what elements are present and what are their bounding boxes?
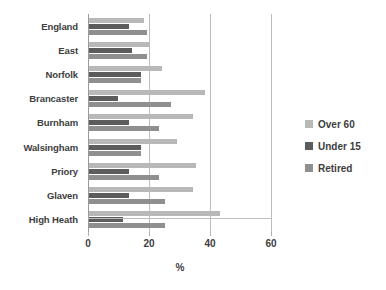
bar-groups	[89, 14, 272, 232]
y-axis-label: Brancaster	[0, 87, 84, 111]
bar-group	[89, 184, 272, 208]
x-axis-line	[88, 218, 272, 219]
x-axis-tick-label: 40	[204, 238, 215, 249]
x-axis-title: %	[88, 262, 272, 273]
bar-row	[89, 54, 272, 59]
bar[interactable]	[89, 120, 129, 125]
bar-row	[89, 139, 272, 144]
legend: Over 60Under 15Retired	[305, 113, 383, 179]
bar-row	[89, 169, 272, 174]
x-axis-ticks	[88, 232, 272, 237]
bar[interactable]	[89, 102, 171, 107]
bar-row	[89, 66, 272, 71]
bar[interactable]	[89, 211, 220, 216]
y-axis-label: East	[0, 38, 84, 62]
bar-row	[89, 42, 272, 47]
legend-swatch-icon	[305, 142, 313, 150]
legend-label: Retired	[318, 163, 352, 174]
bar-row	[89, 193, 272, 198]
y-axis-label: Burnham	[0, 111, 84, 135]
bar-row	[89, 78, 272, 83]
legend-swatch-icon	[305, 120, 313, 128]
x-axis-tick-label: 0	[85, 238, 91, 249]
y-axis-label: England	[0, 14, 84, 38]
bar-row	[89, 187, 272, 192]
bar[interactable]	[89, 54, 147, 59]
bar[interactable]	[89, 96, 118, 101]
y-axis-label: Norfolk	[0, 62, 84, 86]
x-axis-tick-labels: 0204060	[88, 238, 272, 252]
bar-row	[89, 30, 272, 35]
plot-area	[88, 14, 272, 232]
bar-group	[89, 135, 272, 159]
bar[interactable]	[89, 139, 177, 144]
bar[interactable]	[89, 78, 141, 83]
legend-item[interactable]: Under 15	[305, 135, 383, 157]
bar-row	[89, 199, 272, 204]
bar[interactable]	[89, 223, 165, 228]
legend-label: Under 15	[318, 141, 361, 152]
bar[interactable]	[89, 90, 205, 95]
bar[interactable]	[89, 145, 141, 150]
bar[interactable]	[89, 18, 144, 23]
legend-swatch-icon	[305, 164, 313, 172]
bar[interactable]	[89, 175, 159, 180]
bar-group	[89, 111, 272, 135]
bar-row	[89, 90, 272, 95]
bar[interactable]	[89, 151, 141, 156]
bar-row	[89, 24, 272, 29]
x-axis-tick-label: 60	[265, 238, 276, 249]
bar[interactable]	[89, 24, 129, 29]
bar-group	[89, 14, 272, 38]
bar-group	[89, 62, 272, 86]
bar-row	[89, 72, 272, 77]
bar-row	[89, 163, 272, 168]
bar-chart: EnglandEastNorfolkBrancasterBurnhamWalsi…	[0, 0, 386, 290]
y-axis-label: Glaven	[0, 184, 84, 208]
x-axis-tick-label: 20	[143, 238, 154, 249]
y-axis-label: High Heath	[0, 208, 84, 232]
bar[interactable]	[89, 114, 193, 119]
y-axis-category-labels: EnglandEastNorfolkBrancasterBurnhamWalsi…	[0, 14, 84, 232]
bar-row	[89, 151, 272, 156]
bar[interactable]	[89, 199, 165, 204]
bar-row	[89, 120, 272, 125]
legend-item[interactable]: Over 60	[305, 113, 383, 135]
x-axis-tick	[149, 232, 150, 236]
x-axis-tick	[271, 232, 272, 236]
bar[interactable]	[89, 187, 193, 192]
y-axis-label: Priory	[0, 159, 84, 183]
legend-label: Over 60	[318, 119, 355, 130]
bar-row	[89, 211, 272, 216]
bar-row	[89, 18, 272, 23]
y-axis-label: Walsingham	[0, 135, 84, 159]
bar-group	[89, 159, 272, 183]
x-axis-tick	[88, 232, 89, 236]
bar-row	[89, 96, 272, 101]
bar-row	[89, 145, 272, 150]
bar[interactable]	[89, 193, 129, 198]
bar-row	[89, 223, 272, 228]
bar-group	[89, 38, 272, 62]
legend-item[interactable]: Retired	[305, 157, 383, 179]
bar[interactable]	[89, 72, 141, 77]
bar-row	[89, 175, 272, 180]
bar-row	[89, 114, 272, 119]
bar[interactable]	[89, 42, 150, 47]
bar[interactable]	[89, 66, 162, 71]
bar[interactable]	[89, 169, 129, 174]
bar[interactable]	[89, 126, 159, 131]
bar-row	[89, 48, 272, 53]
bar-row	[89, 102, 272, 107]
bar[interactable]	[89, 163, 196, 168]
bar-row	[89, 126, 272, 131]
bar-group	[89, 87, 272, 111]
bar[interactable]	[89, 30, 147, 35]
bar-group	[89, 208, 272, 232]
x-axis-tick	[210, 232, 211, 236]
bar[interactable]	[89, 48, 132, 53]
